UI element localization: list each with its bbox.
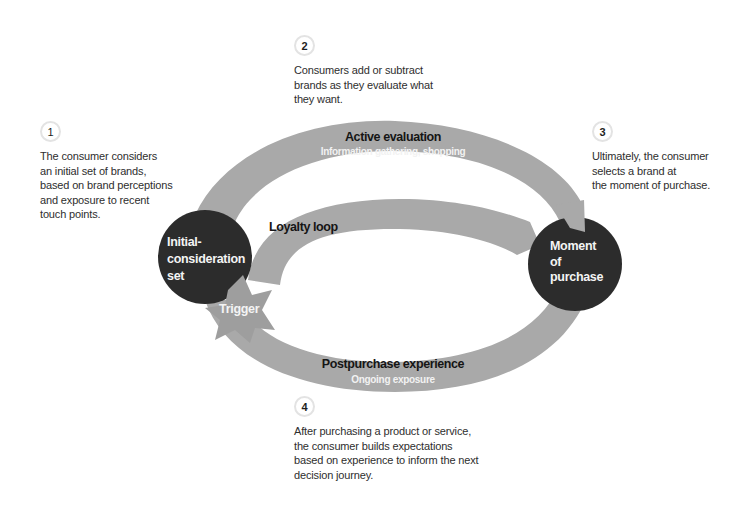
initial-node-label-3: set bbox=[167, 269, 185, 283]
postpurchase-subtitle: Ongoing exposure bbox=[351, 374, 435, 385]
initial-node-label-1: Initial- bbox=[167, 235, 202, 249]
step-4: 4 After purchasing a product or service,… bbox=[294, 396, 478, 482]
step-badge-3: 3 bbox=[592, 121, 613, 142]
step-badge-1: 1 bbox=[40, 121, 61, 142]
postpurchase-title: Postpurchase experience bbox=[322, 357, 465, 371]
purchase-node-label-2: of bbox=[550, 255, 562, 269]
step-badge-4: 4 bbox=[294, 396, 315, 417]
loyalty-loop-band bbox=[248, 199, 540, 285]
purchase-node-label-3: purchase bbox=[550, 270, 604, 284]
step-3: 3 Ultimately, the consumer selects a bra… bbox=[592, 121, 710, 193]
step-4-description: After purchasing a product or service, t… bbox=[294, 424, 478, 482]
step-2: 2 Consumers add or subtract brands as th… bbox=[294, 35, 433, 107]
step-1: 1 The consumer considers an initial set … bbox=[40, 121, 172, 222]
step-2-description: Consumers add or subtract brands as they… bbox=[294, 63, 433, 107]
purchase-node-label-1: Moment bbox=[550, 239, 597, 253]
active-evaluation-subtitle: Information gathering, shopping bbox=[321, 146, 466, 157]
trigger-label: Trigger bbox=[219, 302, 260, 316]
active-evaluation-title: Active evaluation bbox=[345, 130, 441, 144]
initial-node-label-2: consideration bbox=[167, 252, 245, 266]
step-3-description: Ultimately, the consumer selects a brand… bbox=[592, 149, 710, 193]
step-1-description: The consumer considers an initial set of… bbox=[40, 149, 172, 222]
moment-of-purchase-node bbox=[528, 217, 622, 311]
loyalty-loop-title: Loyalty loop bbox=[269, 220, 339, 234]
step-badge-2: 2 bbox=[294, 35, 315, 56]
